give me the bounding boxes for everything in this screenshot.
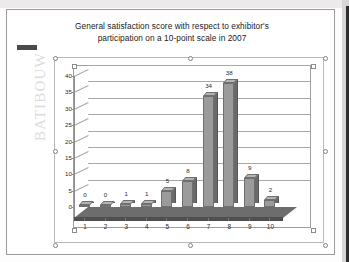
selection-handle-top-center[interactable] <box>188 56 193 61</box>
bar-column[interactable]: 1 <box>120 66 136 207</box>
y-tick-label: 15 <box>60 155 72 161</box>
bar-value-label: 0 <box>74 191 96 198</box>
chart-title-line-2: participation on a 10-point scale in 200… <box>29 33 315 45</box>
y-tick-label: 40 <box>60 73 72 79</box>
bar-side-face <box>193 177 197 203</box>
x-tick-mark <box>249 218 250 221</box>
bar-front-face <box>203 96 214 207</box>
bar-top-face <box>120 200 135 204</box>
bar-value-label: 1 <box>115 190 137 197</box>
bar-column[interactable]: 5 <box>161 66 177 207</box>
bar-column[interactable]: 38 <box>223 66 239 207</box>
y-tick-mark <box>72 92 75 93</box>
x-tick-mark <box>84 218 85 221</box>
x-tick-label: 4 <box>137 223 157 230</box>
scanned-page: General satisfaction score with respect … <box>0 0 349 262</box>
bar-front-face <box>161 191 172 207</box>
page-edge-top <box>0 0 349 8</box>
selection-handle-middle-right[interactable] <box>323 149 328 154</box>
x-tick-label: 2 <box>96 223 116 230</box>
x-tick-label: 3 <box>116 223 136 230</box>
x-tick-mark <box>166 218 167 221</box>
y-tick-label: 20 <box>60 139 72 145</box>
y-tick-mark <box>72 109 75 110</box>
y-tick-label: 30 <box>60 106 72 112</box>
bar-column[interactable]: 8 <box>182 66 198 207</box>
y-tick-label: 35 <box>60 89 72 95</box>
bar-column[interactable]: 0 <box>100 66 116 207</box>
x-tick-mark <box>208 218 209 221</box>
y-tick-mark <box>72 76 75 77</box>
y-tick-label: 25 <box>60 122 72 128</box>
y-tick-label: 10 <box>60 171 72 177</box>
y-tick-mark <box>72 174 75 175</box>
bar-top-face <box>100 201 115 205</box>
bar-front-face <box>182 181 193 207</box>
selection-handle-bottom-right[interactable] <box>323 243 328 248</box>
bar-side-face <box>214 92 218 203</box>
x-tick-label: 7 <box>199 223 219 230</box>
bar-column[interactable]: 1 <box>141 66 157 207</box>
bar-value-label: 38 <box>218 69 240 76</box>
x-tick-mark <box>125 218 126 221</box>
bar-front-face <box>141 204 152 207</box>
bar-value-label: 8 <box>177 167 199 174</box>
document-frame: General satisfaction score with respect … <box>6 9 335 255</box>
x-tick-label: 9 <box>240 223 260 230</box>
bar-column[interactable]: 2 <box>264 66 280 207</box>
bar-column[interactable]: 9 <box>244 66 260 207</box>
x-tick-mark <box>105 218 106 221</box>
y-tick-mark <box>72 142 75 143</box>
bar-column[interactable]: 0 <box>79 66 95 207</box>
bar-top-face <box>141 200 156 204</box>
plot-handle-bottom-right[interactable] <box>311 228 316 233</box>
bar-top-face <box>79 201 94 205</box>
plot-handle-top-right[interactable] <box>311 64 316 69</box>
bar-front-face <box>264 200 275 207</box>
selection-handle-top-right[interactable] <box>323 56 328 61</box>
chart-title: General satisfaction score with respect … <box>29 21 315 44</box>
bar-value-label: 5 <box>156 177 178 184</box>
y-tick-mark <box>72 158 75 159</box>
bar-value-label: 1 <box>136 190 158 197</box>
y-tick-label: 0 <box>60 204 72 210</box>
x-tick-mark <box>146 218 147 221</box>
y-tick-mark <box>72 125 75 126</box>
selection-handle-middle-left[interactable] <box>53 149 58 154</box>
x-tick-mark <box>228 218 229 221</box>
x-tick-label: 5 <box>157 223 177 230</box>
watermark-text: BATIBOUW <box>32 42 49 152</box>
y-tick-mark <box>72 207 75 208</box>
bar-value-label: 34 <box>198 82 220 89</box>
selection-handle-bottom-center[interactable] <box>188 243 193 248</box>
bar-front-face <box>244 178 255 207</box>
x-tick-label: 6 <box>178 223 198 230</box>
bar-value-label: 2 <box>259 186 281 193</box>
bar-front-face <box>79 205 90 207</box>
bar-side-face <box>255 174 259 203</box>
selection-handle-top-left[interactable] <box>53 56 58 61</box>
x-tick-label: 8 <box>219 223 239 230</box>
selection-handle-bottom-left[interactable] <box>53 243 58 248</box>
x-tick-mark <box>269 218 270 221</box>
bar-side-face <box>234 79 238 203</box>
x-tick-label: 10 <box>260 223 280 230</box>
bar-front-face <box>120 204 131 207</box>
plot-area[interactable]: 0510152025303540 001158343892 1234567891… <box>73 65 311 228</box>
bar-front-face <box>100 205 111 207</box>
chart-title-line-1: General satisfaction score with respect … <box>29 21 315 33</box>
bar-value-label: 9 <box>239 164 261 171</box>
bar-column[interactable]: 34 <box>203 66 219 207</box>
x-tick-label: 1 <box>75 223 95 230</box>
bar-value-label: 0 <box>95 191 117 198</box>
y-tick-label: 5 <box>60 188 72 194</box>
plot-handle-top-left[interactable] <box>72 64 77 69</box>
x-tick-mark <box>187 218 188 221</box>
bar-front-face <box>223 83 234 207</box>
